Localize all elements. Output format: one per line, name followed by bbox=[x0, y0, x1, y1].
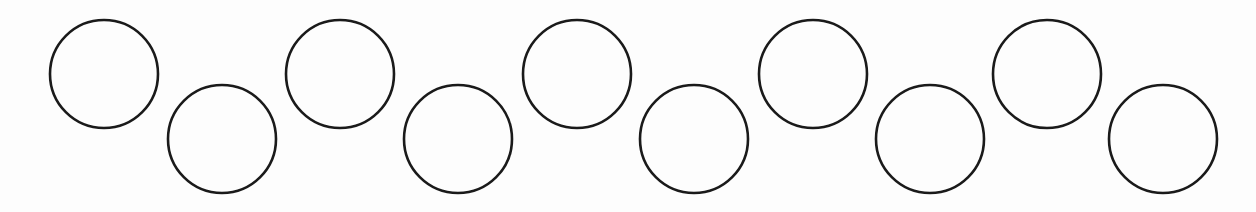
circle-8-lower bbox=[876, 85, 984, 193]
circle-10-lower bbox=[1109, 85, 1217, 193]
circle-4-lower bbox=[404, 85, 512, 193]
circle-3-upper bbox=[286, 20, 394, 128]
circle-5-upper bbox=[523, 20, 631, 128]
circles-figure bbox=[0, 0, 1256, 212]
circle-6-lower bbox=[640, 85, 748, 193]
circle-1-upper bbox=[50, 20, 158, 128]
circle-7-upper bbox=[759, 20, 867, 128]
figure-canvas bbox=[0, 0, 1256, 212]
circle-9-upper bbox=[993, 20, 1101, 128]
circle-2-lower bbox=[168, 85, 276, 193]
